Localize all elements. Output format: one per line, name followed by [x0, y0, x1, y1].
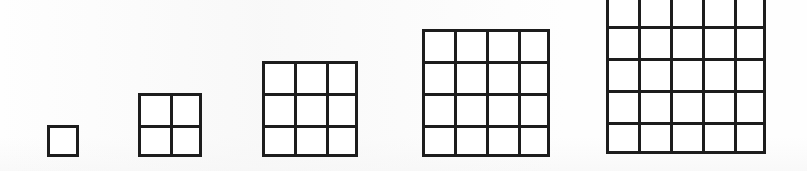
unit-square	[638, 58, 670, 90]
unit-square	[702, 26, 734, 58]
unit-square	[734, 58, 766, 90]
unit-square	[138, 93, 170, 125]
unit-square	[638, 90, 670, 122]
unit-square	[734, 90, 766, 122]
unit-square	[702, 0, 734, 26]
unit-square	[138, 125, 170, 157]
unit-square	[518, 125, 550, 157]
unit-square	[606, 0, 638, 26]
unit-square	[670, 90, 702, 122]
unit-square	[262, 93, 294, 125]
unit-square	[486, 125, 518, 157]
unit-square	[454, 61, 486, 93]
unit-square	[486, 93, 518, 125]
grid-3x3	[262, 61, 358, 157]
unit-square	[638, 26, 670, 58]
unit-square	[734, 26, 766, 58]
unit-square	[262, 125, 294, 157]
grid-4x4	[422, 29, 550, 157]
unit-square	[422, 93, 454, 125]
unit-square	[606, 58, 638, 90]
unit-square	[518, 61, 550, 93]
unit-square	[262, 61, 294, 93]
unit-square	[702, 122, 734, 154]
unit-square	[638, 122, 670, 154]
unit-square	[326, 93, 358, 125]
grid-2x2	[138, 93, 202, 157]
unit-square	[422, 61, 454, 93]
unit-square	[670, 26, 702, 58]
unit-square	[670, 122, 702, 154]
grid-5x5	[606, 0, 766, 154]
unit-square	[606, 26, 638, 58]
unit-square	[702, 90, 734, 122]
unit-square	[170, 125, 202, 157]
unit-square	[670, 58, 702, 90]
unit-square	[422, 29, 454, 61]
unit-square	[454, 93, 486, 125]
grid-1x1	[47, 125, 79, 157]
unit-square	[486, 29, 518, 61]
unit-square	[518, 93, 550, 125]
unit-square	[326, 125, 358, 157]
unit-square	[326, 61, 358, 93]
unit-square	[702, 58, 734, 90]
unit-square	[606, 90, 638, 122]
unit-square	[47, 125, 79, 157]
unit-square	[606, 122, 638, 154]
unit-square	[734, 122, 766, 154]
unit-square	[454, 125, 486, 157]
unit-square	[486, 61, 518, 93]
unit-square	[454, 29, 486, 61]
unit-square	[638, 0, 670, 26]
unit-square	[670, 0, 702, 26]
unit-square	[294, 61, 326, 93]
square-numbers-figure	[0, 0, 807, 171]
unit-square	[294, 125, 326, 157]
unit-square	[734, 0, 766, 26]
unit-square	[422, 125, 454, 157]
unit-square	[518, 29, 550, 61]
unit-square	[294, 93, 326, 125]
unit-square	[170, 93, 202, 125]
